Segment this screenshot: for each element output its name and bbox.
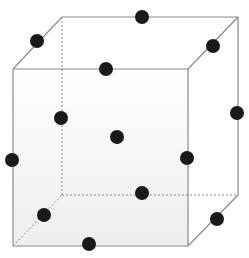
atom-front-right-edge: [180, 151, 194, 165]
crystal-cube-diagram: [0, 0, 249, 258]
atom-back-top-edge: [135, 10, 149, 24]
atom-front-left-edge: [5, 153, 19, 167]
atom-front-bottom-edge: [82, 237, 96, 251]
atom-right-top-depth-edge: [206, 39, 220, 53]
cube-svg: [0, 0, 249, 258]
atom-left-bottom-depth-edge: [37, 208, 51, 222]
atom-back-left-edge: [54, 111, 68, 125]
atom-front-top-edge: [99, 62, 113, 76]
atom-back-bottom-edge: [135, 186, 149, 200]
atom-left-top-depth-edge: [30, 34, 44, 48]
atom-back-right-edge: [230, 106, 244, 120]
atom-body-center: [110, 130, 124, 144]
atom-right-bottom-depth-edge: [210, 212, 224, 226]
